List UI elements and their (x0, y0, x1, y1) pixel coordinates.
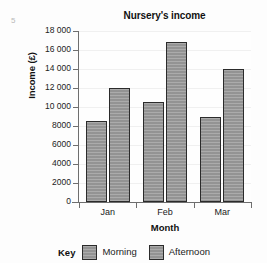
y-tick-label: 10 000 (25, 102, 71, 111)
y-tick-mark (73, 107, 79, 108)
question-number: 5 (11, 17, 15, 25)
x-axis-label: Month (79, 222, 251, 233)
y-tick-mark (73, 183, 79, 184)
y-tick-mark (73, 164, 79, 165)
x-tick-label-jan: Jan (85, 208, 131, 217)
legend-entry-morning: Morning (82, 245, 136, 260)
gridline (79, 31, 251, 32)
y-tick-label: 12 000 (25, 83, 71, 92)
plot-area (79, 31, 251, 202)
legend-swatch-morning (82, 245, 97, 260)
x-tick-mark (194, 202, 195, 208)
gridline (79, 50, 251, 51)
legend-swatch-afternoon (149, 245, 164, 260)
y-tick-label: 6000 (25, 140, 71, 149)
bar-jan-afternoon (109, 88, 130, 202)
bar-jan-morning (86, 121, 107, 202)
legend-entries: MorningAfternoon (82, 245, 222, 260)
y-tick-mark (73, 69, 79, 70)
y-tick-label: 16 000 (25, 45, 71, 54)
y-tick-label: 0 (25, 197, 71, 206)
legend-label-morning: Morning (102, 247, 136, 257)
chart-title: Nursery's income (72, 10, 257, 21)
x-tick-mark (79, 202, 80, 208)
bar-feb-morning (143, 102, 164, 202)
x-axis-line (72, 202, 252, 203)
x-tick-mark (136, 202, 137, 208)
bar-feb-afternoon (166, 42, 187, 202)
bar-mar-afternoon (223, 69, 244, 202)
y-tick-mark (73, 88, 79, 89)
y-axis-line (78, 31, 79, 203)
chart-legend: Key MorningAfternoon (58, 243, 222, 261)
chart-figure: 5 Nursery's income Income (£) 18 00016 0… (0, 0, 267, 263)
y-axis-tick-labels: 18 00016 00014 00012 00010 0008000600040… (22, 0, 71, 263)
y-tick-mark (73, 31, 79, 32)
bar-mar-morning (200, 117, 221, 203)
legend-entry-afternoon: Afternoon (149, 245, 210, 260)
y-tick-mark (73, 50, 79, 51)
x-tick-label-feb: Feb (142, 208, 188, 217)
y-tick-label: 4000 (25, 159, 71, 168)
y-tick-label: 18 000 (25, 26, 71, 35)
x-tick-label-mar: Mar (199, 208, 245, 217)
x-tick-mark (251, 202, 252, 208)
y-tick-mark (73, 126, 79, 127)
legend-label-afternoon: Afternoon (169, 247, 210, 257)
y-tick-label: 2000 (25, 178, 71, 187)
y-tick-label: 14 000 (25, 64, 71, 73)
legend-title: Key (58, 247, 75, 258)
y-tick-mark (73, 145, 79, 146)
y-tick-label: 8000 (25, 121, 71, 130)
